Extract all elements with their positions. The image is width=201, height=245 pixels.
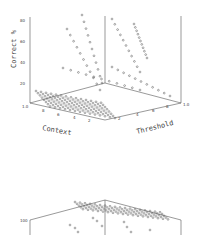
z-tick: 40 <box>20 60 26 65</box>
data-points <box>35 14 171 119</box>
z-tick: 20 <box>20 81 26 86</box>
x-ticks: 1.0 8 6 4 2 <box>22 104 91 123</box>
x-axis-label: Context <box>42 124 72 137</box>
x-tick: 8 <box>42 108 45 113</box>
x-tick: 2 <box>88 118 91 123</box>
z-tick: 60 <box>20 39 26 44</box>
y-axis-label: Threshold <box>136 119 175 136</box>
figure: 80 60 40 20 Correct % 1.0 8 6 4 2 Contex… <box>0 0 201 245</box>
y-axis <box>105 103 181 120</box>
x-tick: 4 <box>73 115 76 120</box>
z-tick: 100 <box>20 218 28 223</box>
z-tick: 80 <box>20 18 26 23</box>
y-tick: 1.0 <box>183 102 190 107</box>
z-ticks: 80 60 40 20 <box>20 18 26 86</box>
y-tick: 8 <box>166 104 169 109</box>
z-axis-label: Correct % <box>10 29 18 68</box>
x-tick: 1.0 <box>22 104 29 109</box>
x-tick: 6 <box>57 112 60 117</box>
y-ticks: 2 4 6 8 1.0 <box>118 102 190 121</box>
